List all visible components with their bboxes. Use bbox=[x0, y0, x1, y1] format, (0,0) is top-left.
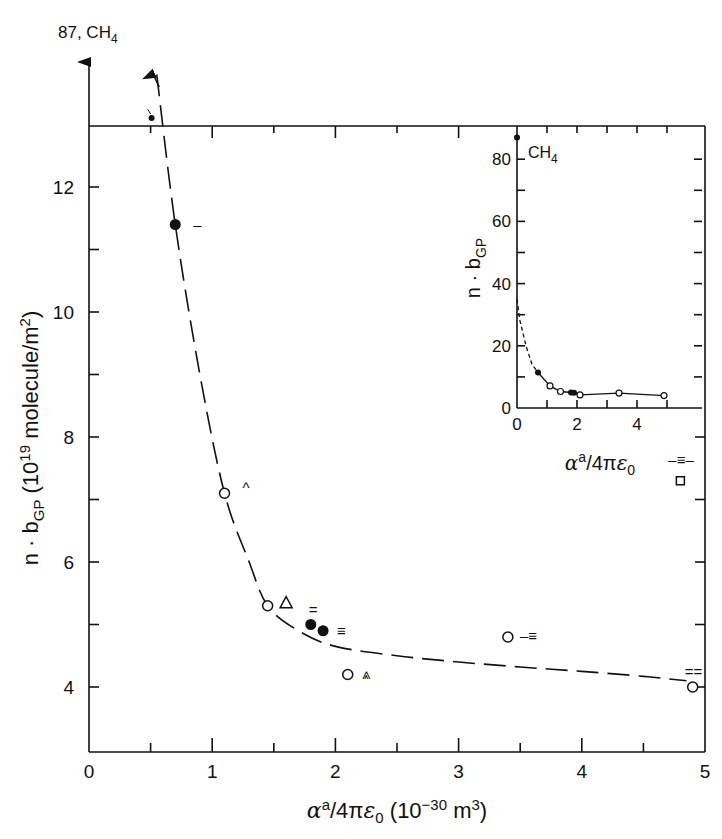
x-axis-title: αa/4πε0 (10−30 m3) bbox=[307, 796, 487, 826]
point-label: –≡ bbox=[520, 627, 537, 644]
inset-point-filled bbox=[571, 390, 577, 396]
point-open bbox=[688, 682, 698, 692]
point-label: ≡ bbox=[337, 622, 346, 639]
y-tick-label: 8 bbox=[63, 427, 74, 448]
inset-dashed-curve bbox=[517, 299, 538, 372]
main-fit-curve bbox=[153, 74, 687, 681]
point-open bbox=[220, 488, 230, 498]
main-axes bbox=[89, 62, 705, 752]
inset-point-open bbox=[661, 393, 667, 399]
point-open bbox=[343, 670, 353, 680]
point-filled bbox=[305, 619, 316, 630]
inset-y-tick-label: 0 bbox=[502, 399, 511, 418]
inset-x-axis-title: αa/4πε0 bbox=[565, 449, 636, 478]
polarizability-chart: –^=≡⩓–≡==–≡– 012345468101202402040608087… bbox=[0, 0, 722, 839]
x-tick-label: 4 bbox=[577, 761, 588, 782]
inset-point-open bbox=[616, 390, 622, 396]
y-tick-label: 6 bbox=[63, 552, 74, 573]
point-label: –≡– bbox=[668, 451, 694, 468]
top-annotation: 87, CH4 bbox=[58, 23, 118, 46]
inset-x-tick-label: 4 bbox=[632, 415, 641, 434]
inset-solid-curve bbox=[538, 373, 664, 396]
point-label: = bbox=[309, 601, 318, 618]
x-tick-label: 0 bbox=[84, 761, 95, 782]
point-label: – bbox=[193, 216, 202, 233]
x-tick-label: 1 bbox=[207, 761, 218, 782]
inset-y-tick-label: 60 bbox=[492, 212, 511, 231]
point-square bbox=[676, 477, 684, 485]
point-open bbox=[263, 601, 273, 611]
inset-ch4-label: CH4 bbox=[528, 144, 558, 166]
point-label: ^ bbox=[243, 479, 250, 496]
x-tick-label: 3 bbox=[453, 761, 464, 782]
main-data-points: –^=≡⩓–≡==–≡– bbox=[148, 109, 703, 692]
point-label: ⩓ bbox=[362, 665, 371, 682]
point-filled bbox=[170, 219, 181, 230]
inset-point-open bbox=[577, 392, 583, 398]
y-axis-title: n · bGP (1019 molecule/m2) bbox=[16, 311, 47, 566]
curve-arrow-up bbox=[153, 74, 159, 87]
chart-labels: 012345468101202402040608087, CH4CH4αa/4π… bbox=[16, 23, 710, 826]
inset-chart bbox=[514, 126, 702, 408]
inset-y-tick-label: 40 bbox=[492, 275, 511, 294]
fit-curve bbox=[157, 75, 687, 681]
inset-point-filled bbox=[514, 134, 520, 140]
point-open bbox=[503, 632, 513, 642]
point-label: == bbox=[685, 663, 703, 680]
point-small-tick bbox=[148, 109, 151, 114]
x-tick-label: 2 bbox=[330, 761, 341, 782]
inset-x-tick-label: 2 bbox=[572, 415, 581, 434]
point-triangle bbox=[280, 597, 292, 608]
inset-x-tick-label: 0 bbox=[512, 415, 521, 434]
point-small bbox=[149, 115, 155, 121]
inset-y-axis-title: n · bGP bbox=[462, 238, 489, 298]
y-tick-label: 4 bbox=[63, 677, 74, 698]
inset-point-open bbox=[558, 389, 564, 395]
inset-point-open bbox=[547, 383, 553, 389]
inset-point-filled bbox=[535, 370, 541, 376]
y-tick-label: 12 bbox=[53, 177, 74, 198]
y-tick-label: 10 bbox=[53, 302, 74, 323]
inset-y-tick-label: 80 bbox=[492, 150, 511, 169]
inset-y-tick-label: 20 bbox=[492, 337, 511, 356]
x-tick-label: 5 bbox=[700, 761, 711, 782]
point-filled bbox=[318, 625, 329, 636]
